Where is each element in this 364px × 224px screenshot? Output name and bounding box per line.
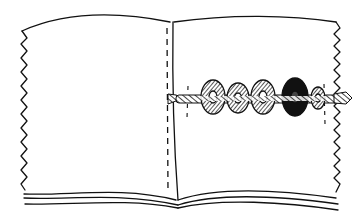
right-bottom-edge-3 [178,202,338,210]
stitch-line-left [167,28,168,192]
left-pinked-edge [21,31,27,190]
left-bottom-edge-3 [25,203,178,208]
right-bottom-edge-1 [178,191,336,200]
fabric-book-illustration [0,0,364,224]
right-page-top-edge [174,16,336,22]
spine-line [173,22,178,200]
right-pinked-edge [334,22,340,192]
illustration-canvas: Open fabric book with a cord of beads th… [0,0,364,224]
left-page-top-edge [22,15,170,31]
